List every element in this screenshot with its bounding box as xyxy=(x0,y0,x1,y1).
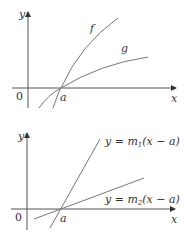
top-origin-label: 0 xyxy=(16,90,23,103)
top-x-axis-label: x xyxy=(171,92,178,105)
bottom-origin-label: 0 xyxy=(15,211,22,224)
line-m1-label-suffix: (x − a) xyxy=(142,135,180,148)
bottom-y-axis-label: y xyxy=(17,130,25,143)
line-m1-label: y = m1(x − a) xyxy=(104,135,180,149)
line-m1 xyxy=(50,139,100,228)
bottom-graph: y x 0 a y = m1(x − a) y = m2(x − a) xyxy=(11,130,180,230)
top-point-a-label: a xyxy=(60,91,67,104)
line-m1-label-prefix: y = m xyxy=(104,135,138,148)
line-m2-label: y = m2(x − a) xyxy=(104,193,180,207)
line-m2-label-suffix: (x − a) xyxy=(142,193,180,206)
curve-g-label: g xyxy=(121,42,128,55)
bottom-x-axis-label: x xyxy=(171,213,178,226)
curve-f-label: f xyxy=(89,22,96,35)
line-m2-label-prefix: y = m xyxy=(104,193,138,206)
top-graph: y x 0 a f g xyxy=(12,8,178,108)
diagram-canvas: y x 0 a f g y x 0 a y = m1(x − a) y = m2… xyxy=(0,0,196,243)
top-y-axis-label: y xyxy=(18,8,26,21)
bottom-point-a-label: a xyxy=(60,212,67,225)
